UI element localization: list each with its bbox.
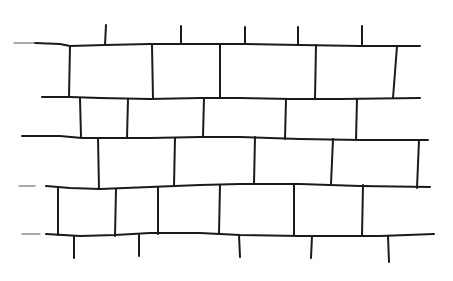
row1-joint-2 (152, 45, 153, 99)
row3-joint-5 (417, 140, 419, 188)
row4-joint-4 (219, 185, 220, 233)
row1-joint-1 (69, 46, 70, 97)
row3-joint-3 (254, 137, 255, 184)
row4-joint-2 (115, 189, 116, 236)
course-4-mortar-line (46, 184, 430, 189)
brick-wall-svg (0, 0, 453, 281)
row1-joint-5 (393, 46, 397, 98)
top-post-1 (105, 25, 106, 45)
row2-joint-3 (203, 98, 204, 137)
bottom-post-3 (239, 235, 240, 257)
bottom-post-4 (311, 236, 312, 258)
row4-joint-6 (362, 185, 363, 236)
row2-joint-4 (285, 99, 286, 139)
brick-wall-drawing (0, 0, 453, 281)
row1-joint-4 (315, 45, 316, 99)
row2-joint-5 (356, 99, 357, 140)
course-2-mortar-line (42, 97, 420, 99)
row2-joint-2 (127, 99, 128, 138)
bottom-post-5 (388, 236, 389, 262)
row3-joint-4 (331, 139, 333, 184)
row3-joint-1 (98, 138, 99, 189)
course-3-mortar-line (22, 136, 428, 140)
row2-joint-1 (80, 98, 81, 137)
row3-joint-2 (174, 138, 175, 186)
